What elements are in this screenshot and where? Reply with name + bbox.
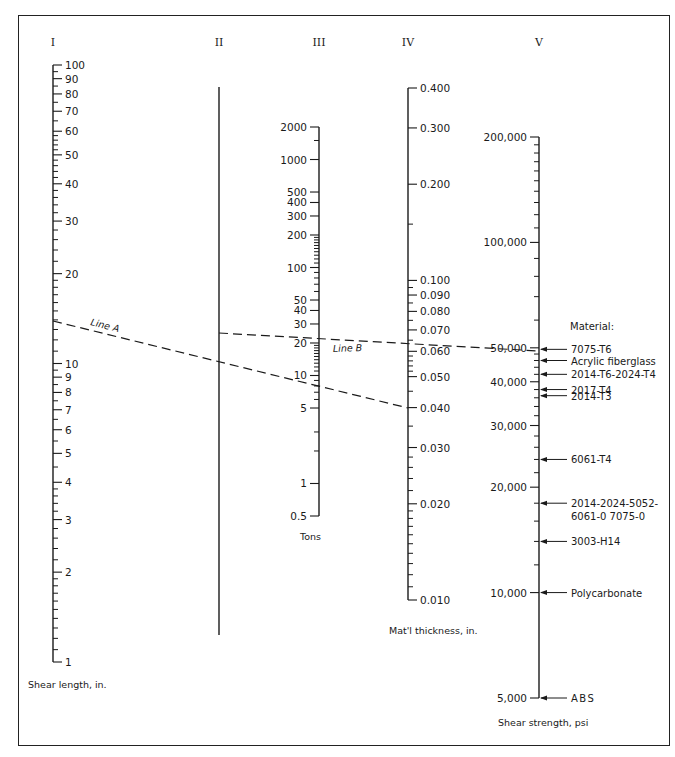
tick-label: 300 [287, 210, 307, 222]
tick-label: 5,000 [497, 692, 527, 704]
tick-label: 0.400 [420, 82, 450, 94]
material-label: 3003-H14 [571, 536, 620, 547]
arrow-left-icon [540, 387, 547, 392]
tick-label: 0.300 [420, 122, 450, 134]
tick-label: 5 [65, 447, 72, 459]
axis-II: II [215, 36, 224, 635]
dashed-line [53, 321, 408, 408]
material-label-line2: 6061-0 7075-0 [571, 511, 645, 522]
axis-caption: Tons [299, 531, 321, 542]
tick-label: 0.030 [420, 442, 450, 454]
tick-label: 0.020 [420, 498, 450, 510]
material-item: 7075-T6 [540, 344, 612, 355]
material-label: 2014-T6-2024-T4 [571, 369, 656, 380]
tick-label: 6 [65, 424, 72, 436]
axis-caption: Shear length, in. [28, 679, 107, 690]
tick-label: 10 [294, 369, 307, 381]
tick-label: 40,000 [490, 376, 527, 388]
tick-label: 9 [65, 371, 72, 383]
tick-label: 80 [65, 88, 78, 100]
tick-label: 2 [65, 566, 72, 578]
tick-label: 4 [65, 476, 72, 488]
tick-label: 20,000 [490, 481, 527, 493]
tick-label: 40 [65, 178, 78, 190]
tick-label: 60 [65, 125, 78, 137]
tick-label: 0.070 [420, 324, 450, 336]
tick-label: 0.080 [420, 305, 450, 317]
arrow-left-icon [540, 347, 547, 352]
tick-label: 20 [65, 268, 78, 280]
tick-label: 100,000 [484, 236, 527, 248]
axis-V: V200,000100,00050,00040,00030,00020,0001… [484, 36, 589, 728]
material-item: 6061-T4 [540, 454, 612, 465]
material-item: 2014-2024-5052-6061-0 7075-0 [540, 498, 659, 522]
arrow-left-icon [540, 539, 547, 544]
example-lines-layer: Line ALine B [53, 316, 539, 408]
tick-label: 30 [65, 215, 78, 227]
arrow-left-icon [540, 696, 547, 701]
tick-label: 400 [287, 196, 307, 208]
material-item: Polycarbonate [540, 588, 642, 599]
tick-label: 50,000 [490, 342, 527, 354]
tick-label: 1000 [280, 154, 307, 166]
tick-label: 0.050 [420, 371, 450, 383]
arrow-left-icon [540, 590, 547, 595]
tick-label: 5 [300, 402, 307, 414]
tick-label: 0.060 [420, 345, 450, 357]
tick-label: 30 [294, 318, 307, 330]
axis-caption: Mat'l thickness, in. [389, 625, 478, 636]
tick-label: 0.200 [420, 178, 450, 190]
tick-label: 10 [65, 358, 78, 370]
materials-legend: Material:7075-T6Acrylic fiberglass2014-T… [540, 321, 659, 704]
material-label: ABS [571, 693, 595, 704]
arrow-left-icon [540, 372, 547, 377]
material-label: 7075-T6 [571, 344, 612, 355]
material-label: Polycarbonate [571, 588, 642, 599]
tick-label: 70 [65, 105, 78, 117]
tick-label: 3 [65, 514, 72, 526]
arrow-left-icon [540, 358, 547, 363]
line-label: Line B [333, 342, 363, 354]
axis-numeral-I: I [51, 36, 55, 49]
tick-label: 100 [65, 59, 85, 71]
axis-III: III200010005004003002001005040302010510.… [280, 36, 325, 542]
tick-label: 8 [65, 386, 72, 398]
nomograph-diagram: I100908070605040302010987654321Shear len… [0, 0, 675, 757]
axis-I: I100908070605040302010987654321Shear len… [28, 36, 107, 690]
example-line-a: Line A [53, 316, 408, 408]
arrow-left-icon [540, 501, 547, 506]
tick-label: 90 [65, 73, 78, 85]
tick-label: 0.090 [420, 289, 450, 301]
axis-numeral-II: II [215, 36, 224, 49]
tick-label: 0.5 [290, 510, 307, 522]
tick-label: 0.100 [420, 274, 450, 286]
material-label: Acrylic fiberglass [571, 356, 656, 367]
material-item: 2014-T3 [540, 391, 612, 402]
tick-label: 200 [287, 229, 307, 241]
material-label: 6061-T4 [571, 454, 612, 465]
axis-caption: Shear strength, psi [498, 717, 588, 728]
material-label: 2014-T3 [571, 391, 612, 402]
tick-label: 0.040 [420, 402, 450, 414]
tick-label: 30,000 [490, 420, 527, 432]
material-label: 2014-2024-5052- [571, 498, 659, 509]
arrow-left-icon [540, 457, 547, 462]
tick-label: 40 [294, 304, 307, 316]
tick-label: 0.010 [420, 594, 450, 606]
material-item: Acrylic fiberglass [540, 356, 656, 367]
axis-IV: IV0.4000.3000.2000.1000.0900.0800.0700.0… [389, 36, 478, 636]
tick-label: 7 [65, 404, 72, 416]
material-item: ABS [540, 693, 595, 704]
axis-numeral-IV: IV [402, 36, 415, 49]
tick-label: 50 [65, 149, 78, 161]
material-item: 2014-T6-2024-T4 [540, 369, 656, 380]
arrow-left-icon [540, 393, 547, 398]
axis-numeral-III: III [312, 36, 325, 49]
tick-label: 200,000 [484, 131, 527, 143]
tick-label: 1 [65, 656, 72, 668]
tick-label: 100 [287, 262, 307, 274]
tick-label: 10,000 [490, 587, 527, 599]
material-item: 3003-H14 [540, 536, 620, 547]
axis-numeral-V: V [534, 36, 544, 49]
tick-label: 1 [300, 477, 307, 489]
